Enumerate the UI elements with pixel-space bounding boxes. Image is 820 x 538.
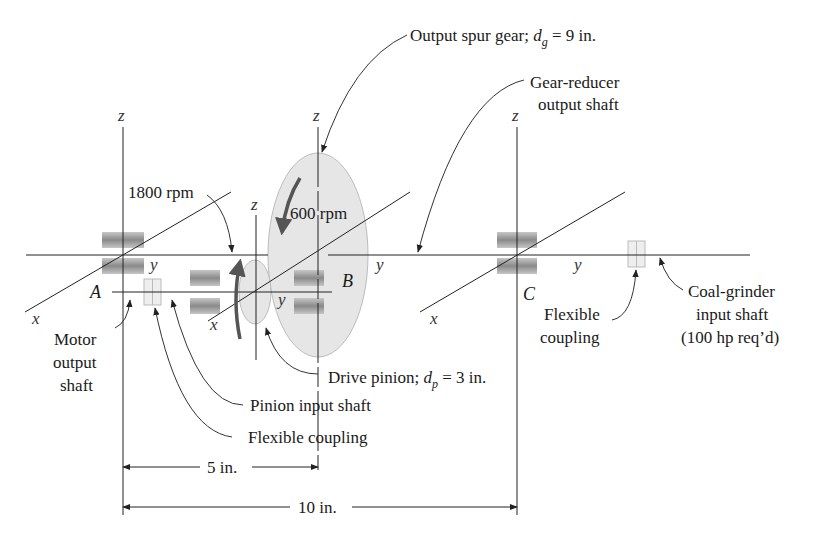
drive-pinion-label: Drive pinion; dp = 3 in. [328,368,486,391]
z-label: z [312,106,320,125]
flexible-coupling-right-label-2: coupling [540,328,600,347]
z-label: z [511,106,519,125]
input-rpm-label: 1800 rpm [128,183,194,202]
grinder-label-3: (100 hp req’d) [681,328,779,347]
x-axis-a [25,192,231,312]
z-label: z [250,195,258,214]
shaft-gear-diagram: z z z z y y y y x x x A B C Output spur … [0,0,820,538]
motor-shaft-label-1: Motor [54,330,97,349]
flexible-coupling-right [628,241,645,267]
reducer-shaft-label-2: output shaft [538,95,619,114]
point-b-label: B [342,271,353,291]
y-label: y [374,255,384,274]
motor-shaft-label-2: output [53,353,97,372]
pinion-input-shaft-label: Pinion input shaft [250,396,371,415]
point-c-label: C [523,284,536,304]
y-label: y [276,290,286,309]
point-a-label: A [89,282,102,302]
z-label: z [117,106,125,125]
y-label: y [148,255,158,274]
y-label: y [572,255,582,274]
flexible-coupling-right-label-1: Flexible [544,305,600,324]
motor-shaft-label-3: shaft [60,376,93,395]
flexible-coupling-label: Flexible coupling [248,428,368,447]
x-label: x [31,309,40,328]
dimension-10in: 10 in. [298,498,337,517]
x-label: x [429,309,438,328]
dimension-5in: 5 in. [207,458,237,477]
grinder-label-2: input shaft [696,305,769,324]
reducer-shaft-label-1: Gear-reducer [530,73,620,92]
output-rpm-label: 600 rpm [290,204,347,223]
output-gear-label: Output spur gear; dg = 9 in. [410,26,596,49]
grinder-label-1: Coal-grinder [688,282,775,301]
x-label: x [209,315,218,334]
